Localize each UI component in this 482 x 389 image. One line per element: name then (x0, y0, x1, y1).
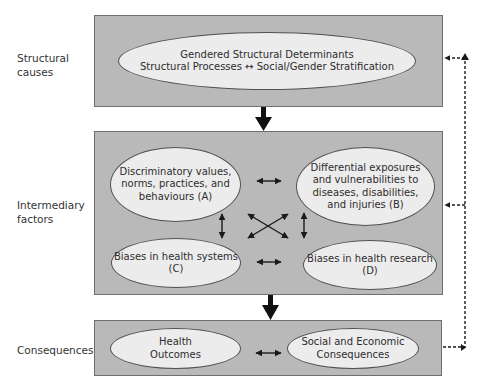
dashed-feedback-line (443, 58, 465, 347)
dashed-feedback-loop (443, 58, 465, 347)
dashed-arrowhead-up-icon (461, 53, 469, 60)
arrow-down-intermediary-to-consequences (262, 295, 279, 320)
arrows-layer (0, 0, 482, 389)
arrow-down-structural-to-intermediary (255, 107, 272, 131)
dashed-arrowhead-corner-icon (461, 344, 466, 351)
